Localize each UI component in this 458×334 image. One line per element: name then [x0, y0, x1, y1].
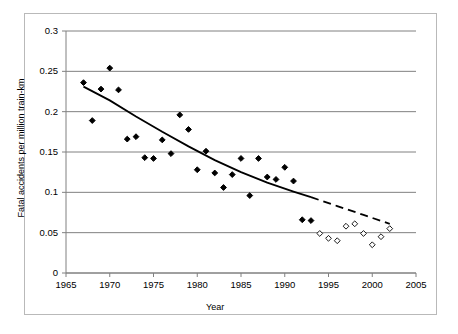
- data-point-filled: [291, 178, 297, 184]
- y-tick-label: 0.05: [24, 227, 58, 238]
- data-point-filled: [142, 155, 148, 161]
- data-point-open: [369, 242, 375, 248]
- data-point-filled: [238, 156, 244, 162]
- data-point-filled: [203, 148, 209, 154]
- data-point-open: [361, 231, 367, 237]
- x-tick-label: 1990: [265, 279, 305, 290]
- x-tick-label: 1995: [309, 279, 349, 290]
- data-point-filled: [107, 65, 113, 71]
- x-tick-label: 1980: [177, 279, 217, 290]
- data-point-open: [334, 238, 340, 244]
- data-point-open: [378, 234, 384, 240]
- data-point-open: [343, 223, 349, 229]
- data-point-filled: [81, 80, 87, 86]
- data-point-filled: [98, 86, 104, 92]
- y-tick-label: 0.2: [24, 106, 58, 117]
- data-point-filled: [212, 170, 218, 176]
- data-point-filled: [116, 87, 122, 93]
- data-point-filled: [308, 218, 314, 224]
- data-point-filled: [177, 112, 183, 118]
- x-tick-label: 2005: [396, 279, 436, 290]
- y-tick-label: 0.1: [24, 186, 58, 197]
- data-point-filled: [221, 185, 227, 191]
- data-point-filled: [159, 137, 165, 143]
- y-tick-label: 0.15: [24, 146, 58, 157]
- plot-area: Fatal accidents per million train-km Yea…: [0, 0, 458, 334]
- x-tick-label: 2000: [352, 279, 392, 290]
- data-point-filled: [194, 167, 200, 173]
- data-point-filled: [151, 156, 157, 162]
- data-point-filled: [124, 136, 130, 142]
- trend-line-dashed: [311, 197, 390, 224]
- y-tick-label: 0.25: [24, 65, 58, 76]
- data-point-filled: [264, 174, 270, 180]
- chart-figure: Fatal accidents per million train-km Yea…: [0, 0, 458, 334]
- x-tick-label: 1965: [46, 279, 86, 290]
- data-point-filled: [282, 164, 288, 170]
- data-point-filled: [256, 156, 262, 162]
- data-point-open: [317, 231, 323, 237]
- x-tick-label: 1975: [134, 279, 174, 290]
- data-point-open: [387, 226, 393, 232]
- x-tick-label: 1970: [90, 279, 130, 290]
- data-point-open: [352, 221, 358, 227]
- y-tick-label: 0: [24, 267, 58, 278]
- data-point-filled: [229, 172, 235, 178]
- data-point-filled: [247, 193, 253, 199]
- data-point-filled: [273, 177, 279, 183]
- data-point-filled: [89, 118, 95, 124]
- data-point-filled: [133, 134, 139, 140]
- x-tick-label: 1985: [221, 279, 261, 290]
- data-point-open: [326, 235, 332, 241]
- x-axis-title: Year: [206, 302, 224, 312]
- data-point-filled: [299, 217, 305, 223]
- data-point-filled: [186, 127, 192, 133]
- y-tick-label: 0.3: [24, 25, 58, 36]
